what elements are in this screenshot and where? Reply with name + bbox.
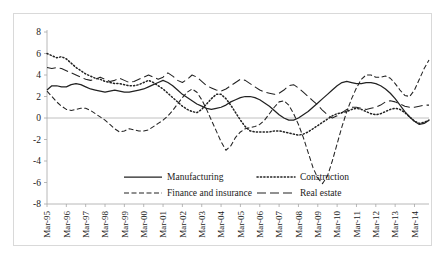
x-axis-tick-label: Mar-98 <box>100 211 110 238</box>
x-axis-tick-label: Mar-11 <box>352 211 362 237</box>
y-axis-labels: 86420-2-4-6-8 <box>33 27 41 209</box>
y-axis-tick-label: 6 <box>36 49 41 59</box>
chart-legend: ManufacturingFinance and insuranceConstr… <box>124 172 349 198</box>
y-axis-tick-label: -4 <box>33 156 41 166</box>
x-axis-tick-label: Mar-02 <box>178 211 188 238</box>
legend-label-real-estate: Real estate <box>300 188 341 198</box>
legend-label-construction: Construction <box>300 172 349 182</box>
legend-label-finance-and-insurance: Finance and insurance <box>167 188 252 198</box>
legend-label-manufacturing: Manufacturing <box>167 172 224 182</box>
y-axis-tick-label: 2 <box>36 92 41 102</box>
x-axis-tick-label: Mar-95 <box>42 211 52 238</box>
x-axis-labels: Mar-95Mar-96Mar-97Mar-98Mar-99Mar-00Mar-… <box>42 211 419 238</box>
x-axis-tick-label: Mar-05 <box>236 211 246 238</box>
y-axis-tick-label: -2 <box>33 135 41 145</box>
x-axis-tick-label: Mar-03 <box>197 211 207 238</box>
x-axis-tick-label: Mar-97 <box>81 211 91 238</box>
x-axis-tick-label: Mar-14 <box>410 211 420 238</box>
chart-figure: Mar-95Mar-96Mar-97Mar-98Mar-99Mar-00Mar-… <box>13 13 432 246</box>
y-axis-tick-label: -8 <box>33 199 41 209</box>
y-axis-tick-label: 8 <box>36 27 41 37</box>
x-axis-tick-label: Mar-06 <box>255 211 265 238</box>
y-axis-tick-label: -6 <box>33 178 41 188</box>
x-axis-tick-label: Mar-12 <box>371 211 381 238</box>
x-axis-tick-label: Mar-00 <box>139 211 149 238</box>
x-axis-tick-label: Mar-99 <box>120 211 130 238</box>
data-series-group <box>47 54 429 184</box>
line-chart: Mar-95Mar-96Mar-97Mar-98Mar-99Mar-00Mar-… <box>14 14 433 247</box>
x-axis-tick-label: Mar-10 <box>332 211 342 238</box>
x-axis-ticks <box>47 204 414 207</box>
x-axis-tick-label: Mar-08 <box>294 211 304 238</box>
x-axis-tick-label: Mar-09 <box>313 211 323 238</box>
x-axis-tick-label: Mar-01 <box>158 211 168 238</box>
y-axis-tick-label: 0 <box>36 113 41 123</box>
x-axis-tick-label: Mar-04 <box>216 211 226 238</box>
x-axis-tick-label: Mar-13 <box>390 211 400 238</box>
x-axis-tick-label: Mar-96 <box>62 211 72 238</box>
x-axis-tick-label: Mar-07 <box>274 211 284 238</box>
y-axis-ticks <box>44 32 47 204</box>
y-axis-tick-label: 4 <box>36 70 41 80</box>
series-line-construction <box>47 54 429 136</box>
